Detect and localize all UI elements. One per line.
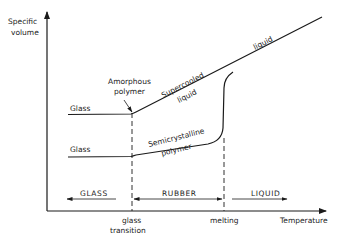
liquid-label: liquid bbox=[252, 34, 275, 51]
glass-transition-label-line1: glass bbox=[122, 216, 141, 225]
glass-label-lower: Glass bbox=[70, 145, 90, 154]
region-rubber-label: RUBBER bbox=[162, 189, 197, 198]
amorphous-label-line1: Amorphous bbox=[108, 77, 151, 86]
diagram-canvas: Specific volume Temperature glass transi… bbox=[0, 0, 341, 243]
region-liquid-label: LIQUID bbox=[251, 189, 280, 198]
amorphous-curve bbox=[68, 17, 322, 115]
amorphous-pointer bbox=[124, 100, 132, 112]
melting-label: melting bbox=[210, 216, 239, 225]
x-axis-label: Temperature bbox=[279, 216, 328, 225]
glass-transition-label-line2: transition bbox=[110, 226, 146, 235]
y-axis-label-line2: volume bbox=[11, 28, 39, 37]
glass-label-upper: Glass bbox=[70, 104, 90, 113]
amorphous-label-line2: polymer bbox=[114, 87, 146, 96]
region-glass-label: GLASS bbox=[80, 189, 108, 198]
y-axis-label-line1: Specific bbox=[8, 17, 37, 26]
